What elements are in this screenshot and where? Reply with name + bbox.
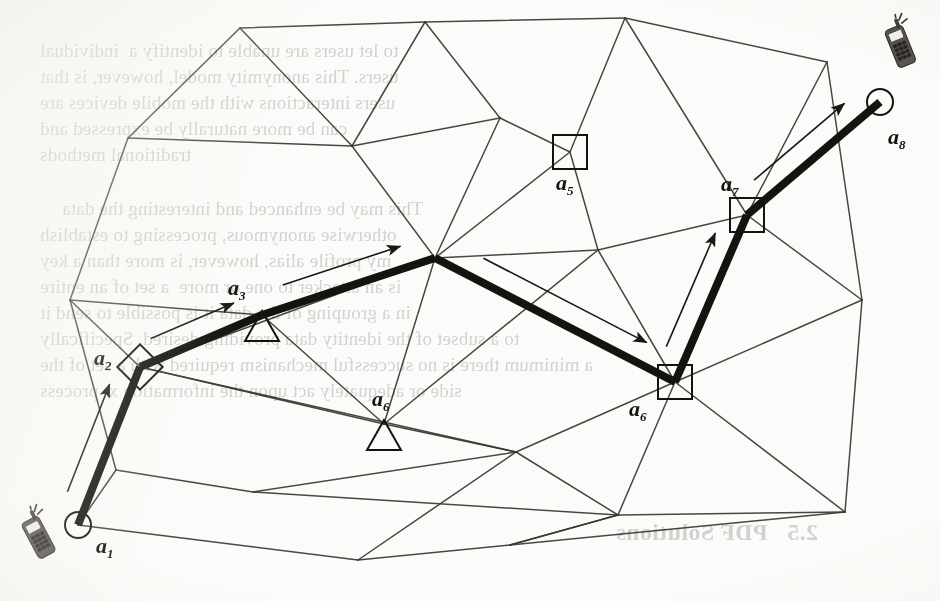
mesh-edge [352, 22, 425, 146]
mesh-edges [70, 18, 862, 560]
scanned-page: to let users are unable to identify a in… [0, 0, 940, 601]
direction-arrow [666, 233, 715, 347]
path-segment [78, 367, 140, 525]
mesh-edge [384, 258, 435, 424]
mesh-edge [510, 515, 618, 545]
mesh-edge [352, 146, 435, 258]
mesh-edge [384, 424, 516, 452]
direction-arrow [67, 384, 109, 491]
mesh-edge [128, 28, 240, 138]
mesh-edge [140, 367, 516, 452]
mesh-edge [570, 152, 598, 250]
mesh-edge [516, 382, 675, 452]
path-segment [675, 215, 747, 382]
path-segment [747, 102, 880, 215]
mesh-edge [253, 452, 516, 492]
node-label-a7: a7 [721, 171, 739, 200]
node-label-a8: a8 [888, 124, 906, 153]
graph-figure [0, 0, 940, 601]
mesh-edge [435, 152, 570, 258]
mesh-edge [240, 22, 425, 28]
direction-arrows [67, 103, 844, 491]
node-label-a6: a6 [629, 396, 647, 425]
mesh-edge [384, 250, 598, 424]
path-segment [262, 258, 435, 315]
mesh-edge [253, 492, 618, 515]
mesh-edge [128, 138, 352, 146]
mesh-edge [358, 545, 510, 560]
mesh-edge [435, 118, 500, 258]
path-segment [140, 315, 262, 367]
mesh-edge [358, 452, 516, 560]
mesh-edge [618, 512, 845, 515]
mesh-edge [618, 382, 675, 515]
direction-arrow [483, 258, 646, 342]
mesh-edge [598, 215, 747, 250]
mesh-edge [425, 18, 625, 22]
node-label-a3: a3 [228, 275, 246, 304]
mesh-edge [352, 118, 500, 146]
node-label-a5: a5 [556, 170, 574, 199]
mesh-edge [435, 250, 598, 258]
node-label-a6b: a6 [372, 386, 390, 415]
mesh-edge [116, 470, 253, 492]
node-label-a2: a2 [94, 345, 112, 374]
mesh-edge [747, 62, 827, 215]
mesh-edge [570, 18, 625, 152]
mesh-edge [70, 138, 128, 300]
mesh-edge [516, 452, 618, 515]
mesh-edge [845, 300, 862, 512]
mesh-edge [425, 22, 500, 118]
highlighted-path [78, 102, 880, 525]
graph-nodes [65, 89, 893, 538]
mesh-edge [510, 512, 845, 545]
mesh-edge [625, 18, 827, 62]
mesh-edge [78, 525, 358, 560]
mesh-edge [827, 62, 862, 300]
mesh-edge [240, 28, 352, 146]
mesh-edge [675, 382, 845, 512]
node-label-a1: a1 [96, 533, 114, 562]
